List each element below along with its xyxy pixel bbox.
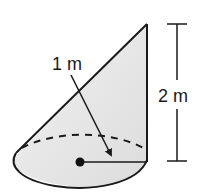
cone-diagram: 1 m 2 m xyxy=(0,0,217,195)
base-center-dot xyxy=(76,158,85,167)
cone-svg: 1 m 2 m xyxy=(0,0,217,195)
radius-label: 1 m xyxy=(52,54,82,74)
height-label: 2 m xyxy=(158,86,188,106)
